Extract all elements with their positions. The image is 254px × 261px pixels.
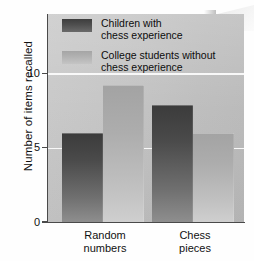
y-axis-title: Number of items recalled <box>22 16 34 196</box>
legend-label-children-line2: chess experience <box>101 30 183 42</box>
y-tick-label-10: 10 <box>14 67 40 79</box>
bar-random-numbers-college[interactable] <box>103 85 144 222</box>
legend-item-college[interactable]: College students without chess experienc… <box>62 50 215 73</box>
legend-label-children-line1: Children with <box>101 18 183 30</box>
y-tick-mark-10 <box>42 73 48 74</box>
y-tick-mark-5 <box>42 147 48 148</box>
legend-label-children: Children with chess experience <box>101 18 183 41</box>
legend-label-college-line1: College students without <box>101 50 215 62</box>
bar-highlight <box>193 133 234 134</box>
y-tick-mark-0 <box>42 221 48 222</box>
legend-item-children[interactable]: Children with chess experience <box>62 18 215 41</box>
y-tick-label-0: 0 <box>14 216 40 228</box>
y-tick-label-5: 5 <box>14 141 40 153</box>
bar-chess-pieces-children[interactable] <box>152 105 193 222</box>
bar-chess-pieces-college[interactable] <box>193 133 234 222</box>
x-category-random-numbers-line2: numbers <box>63 242 147 255</box>
plot-area: Children with chess experience College s… <box>48 14 244 222</box>
legend-label-college-line2: chess experience <box>101 62 215 74</box>
bar-highlight <box>152 105 193 106</box>
y-axis-line <box>47 14 48 223</box>
bar-random-numbers-children[interactable] <box>62 133 103 222</box>
legend-label-college: College students without chess experienc… <box>101 50 215 73</box>
bar-highlight <box>103 85 144 86</box>
x-category-chess-pieces-line1: Chess <box>153 229 237 242</box>
chart-legend: Children with chess experience College s… <box>62 18 215 82</box>
legend-swatch-college-icon <box>62 51 92 64</box>
x-category-label-chess-pieces: Chess pieces <box>153 229 237 255</box>
chart-figure: Number of items recalled Children with <box>0 0 254 261</box>
legend-swatch-children-icon <box>62 19 92 32</box>
bar-highlight <box>62 133 103 134</box>
x-category-label-random-numbers: Random numbers <box>63 229 147 255</box>
x-category-chess-pieces-line2: pieces <box>153 242 237 255</box>
x-category-random-numbers-line1: Random <box>63 229 147 242</box>
x-axis-line <box>47 222 245 223</box>
